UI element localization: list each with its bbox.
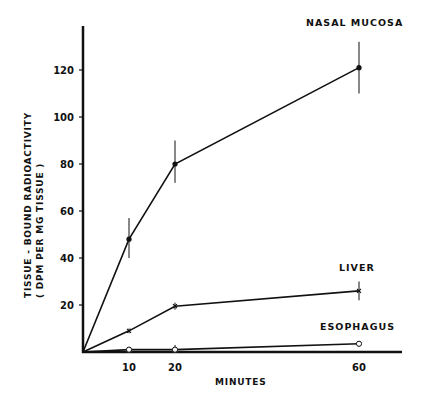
series-label-nasal-mucosa: NASAL MUCOSA bbox=[306, 17, 403, 28]
y-tick-label: 100 bbox=[53, 112, 74, 123]
filled-circle-marker bbox=[126, 237, 131, 242]
x-tick-label: 20 bbox=[168, 362, 182, 373]
y-tick-label: 20 bbox=[60, 300, 74, 311]
x-tick-label: 10 bbox=[122, 362, 136, 373]
filled-circle-marker bbox=[356, 65, 361, 70]
y-axis-subtitle: ( DPM PER MG TISSUE ) bbox=[35, 163, 45, 298]
y-axis-title: TISSUE - BOUND RADIOACTIVITY bbox=[23, 112, 33, 298]
chart: 20406080100120102060 NASAL MUCOSA LIVER … bbox=[0, 0, 422, 408]
x-tick-label: 60 bbox=[352, 362, 366, 373]
series-nasal-mucosa bbox=[83, 42, 362, 352]
y-tick-label: 60 bbox=[60, 206, 74, 217]
series-layer bbox=[83, 42, 362, 352]
series-label-esophagus: ESOPHAGUS bbox=[320, 321, 395, 332]
open-circle-marker bbox=[172, 347, 177, 352]
y-tick-label: 40 bbox=[60, 253, 74, 264]
series-liver bbox=[83, 282, 361, 353]
filled-circle-marker bbox=[172, 161, 177, 166]
series-label-liver: LIVER bbox=[339, 262, 375, 273]
open-circle-marker bbox=[356, 341, 361, 346]
open-circle-marker bbox=[126, 347, 131, 352]
y-tick-label: 120 bbox=[53, 65, 74, 76]
series-esophagus bbox=[83, 341, 362, 352]
series-line bbox=[83, 291, 359, 352]
y-tick-label: 80 bbox=[60, 159, 74, 170]
x-axis-title: MINUTES bbox=[215, 377, 267, 387]
series-line bbox=[83, 68, 359, 352]
